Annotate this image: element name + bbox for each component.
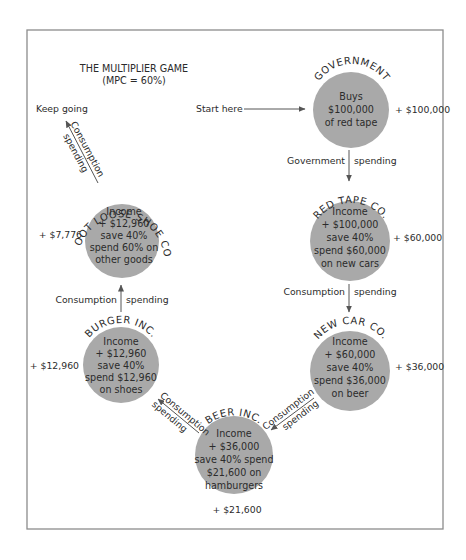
red-tape-line-5: on new cars <box>321 258 379 269</box>
new-car-side-value: + $36,000 <box>395 361 444 372</box>
new-car-line-5: on beer <box>332 388 369 399</box>
government-line-2: $100,000 <box>328 104 374 115</box>
burger-line-4: spend $12,960 <box>85 372 157 383</box>
new-car-line-4: spend $36,000 <box>314 375 386 386</box>
flow-label-left: Consumption <box>55 294 117 305</box>
foot-loose-line-1: Income <box>106 206 141 217</box>
red-tape-line-4: spend $60,000 <box>314 245 386 256</box>
diagram-subtitle: (MPC = 60%) <box>102 75 166 86</box>
foot-loose-line-5: other goods <box>95 254 153 265</box>
burger-line-1: Income <box>103 336 138 347</box>
node-burger: BURGER INC. Income + $12,960 save 40% sp… <box>30 314 160 403</box>
diagram-title: THE MULTIPLIER GAME <box>79 63 188 74</box>
node-red-tape: RED TAPE CO. Income + $100,000 save 40% … <box>310 194 442 281</box>
red-tape-line-2: + $100,000 <box>322 219 379 230</box>
flow-label-left: Consumption <box>283 286 345 297</box>
burger-line-5: on shoes <box>100 384 143 395</box>
node-government: GOVERNMENT Buys $100,000 of red tape + $… <box>312 55 450 148</box>
flow-footloose-keepgoing: Consumption spending <box>58 119 107 184</box>
flow-label-right: spending <box>354 286 397 297</box>
government-side-value: + $100,000 <box>395 104 450 115</box>
beer-line-2: + $36,000 <box>209 441 260 452</box>
burger-line-3: save 40% <box>98 360 145 371</box>
node-new-car: NEW CAR CO. Income + $60,000 save 40% sp… <box>310 315 444 411</box>
foot-loose-line-3: save 40% <box>101 230 148 241</box>
flow-label-right: spending <box>354 155 397 166</box>
new-car-line-3: save 40% <box>327 362 374 373</box>
new-car-line-1: Income <box>332 336 367 347</box>
start-label: Start here <box>196 103 243 114</box>
foot-loose-side-value: + $7,776 <box>39 229 82 240</box>
keep-going-label: Keep going <box>36 103 88 114</box>
burger-line-2: + $12,960 <box>96 348 147 359</box>
burger-side-value: + $12,960 <box>30 360 79 371</box>
red-tape-line-3: save 40% <box>327 232 374 243</box>
government-line-3: of red tape <box>325 117 378 128</box>
beer-line-5: hamburgers <box>205 480 263 491</box>
flow-newcar-beer: Consumption spending <box>260 386 323 441</box>
red-tape-side-value: + $60,000 <box>393 232 442 243</box>
beer-line-4: $21,600 on <box>207 467 262 478</box>
foot-loose-line-4: spend 60% on <box>90 242 159 253</box>
beer-line-1: Income <box>216 428 251 439</box>
foot-loose-line-2: + $12,960 <box>99 218 150 229</box>
flow-label-right: spending <box>126 294 169 305</box>
government-line-1: Buys <box>339 91 362 102</box>
beer-line-3: save 40% spend <box>194 454 273 465</box>
flow-label-left: Government <box>287 155 345 166</box>
new-car-line-2: + $60,000 <box>325 349 376 360</box>
multiplier-diagram: THE MULTIPLIER GAME (MPC = 60%) Start he… <box>0 0 466 560</box>
beer-side-value: + $21,600 <box>212 504 261 515</box>
red-tape-line-1: Income <box>332 206 367 217</box>
